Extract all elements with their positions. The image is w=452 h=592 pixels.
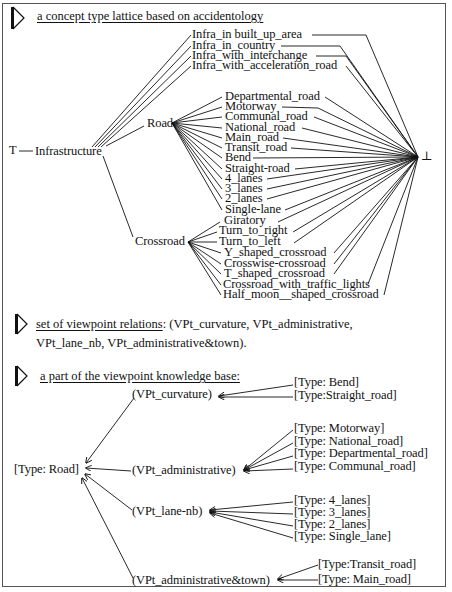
kb-vpt-administrative-town: (VPt_administrative&town): [132, 574, 270, 586]
node-crossroad: Crossroad: [135, 235, 185, 247]
kb-type-straight-road: [Type:Straight_road]: [294, 389, 397, 401]
section-1-heading: a concept type lattice based on accident…: [37, 9, 263, 23]
section-1-marker-icon: [11, 7, 25, 29]
node-road: Road: [147, 117, 173, 129]
kb-vpt-administrative: (VPt_administrative): [132, 464, 236, 476]
section-3-heading-text: a part of the viewpoint knowledge base:: [40, 369, 240, 383]
section-2-line-2: VPt_lane_nb, VPt_administrative&town).: [36, 336, 247, 350]
kb-type-main-road: [Type: Main_road]: [318, 573, 411, 585]
kb-type-transit-road: [Type:Transit_road]: [318, 558, 416, 570]
kb-vpt-lane-nb: (VPt_lane-nb): [132, 505, 202, 517]
kb-type-motorway: [Type: Motorway]: [294, 422, 384, 434]
kb-type-single-lane: [Type: Single_lane]: [294, 530, 391, 542]
kb-type-departmental-road: [Type: Departmental_road]: [294, 447, 428, 459]
kb-type-road: [Type: Road]: [14, 463, 79, 475]
section-2-heading-underlined: set of viewpoint relations: [36, 317, 163, 331]
section-1-heading-text: a concept type lattice based on accident…: [37, 9, 263, 23]
section-2-marker-icon: [15, 314, 29, 336]
bottom-symbol: ⊥: [421, 150, 433, 162]
node-half-moon-crossroad: Half_moon__shaped_crossroad: [223, 288, 379, 300]
section-3-marker-icon: [15, 366, 29, 388]
section-3-heading: a part of the viewpoint knowledge base:: [40, 369, 240, 383]
top-symbol: T: [9, 144, 17, 156]
section-2-heading: set of viewpoint relations: (VPt_curvatu…: [36, 317, 353, 331]
kb-vpt-curvature: (VPt_curvature): [132, 388, 212, 400]
section-2-heading-rest: : (VPt_curvature, VPt_administrative,: [163, 317, 353, 331]
node-infra-acceleration-road: Infra_with_acceleration_road: [192, 59, 337, 71]
kb-type-bend: [Type: Bend]: [294, 376, 359, 388]
node-infrastructure: Infrastructure: [35, 145, 102, 157]
kb-type-communal-road: [Type: Communal_road]: [294, 460, 416, 472]
